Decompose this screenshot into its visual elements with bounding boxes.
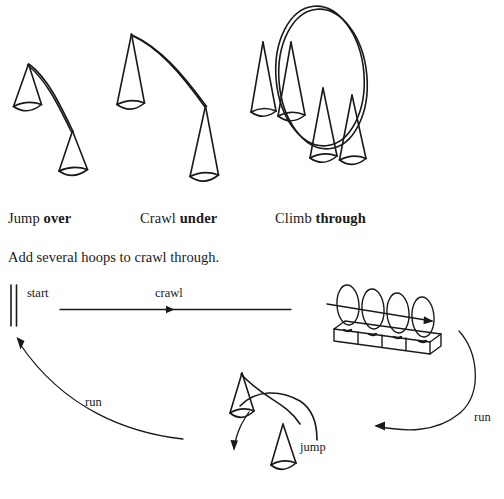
caption-jump-over: Jump over <box>8 211 71 226</box>
caption-climb-bold: through <box>315 210 365 226</box>
run-arrow-right <box>375 331 476 431</box>
rope <box>28 65 72 132</box>
climb-through-figure <box>251 2 373 164</box>
label-crawl: crawl <box>155 287 183 300</box>
jump-station <box>230 373 317 469</box>
jump-arc <box>240 393 317 440</box>
crawl-arrow <box>60 306 291 313</box>
caption-climb-through: Climb through <box>275 211 366 226</box>
label-run-left: run <box>85 396 102 409</box>
instruction-text: Add several hoops to crawl through. <box>8 250 219 265</box>
hoop-row <box>327 284 441 354</box>
rope <box>131 35 205 107</box>
crawl-under-figure <box>117 34 219 181</box>
start-gate <box>11 285 17 326</box>
run-arrow-left <box>17 337 184 439</box>
cone <box>59 131 88 175</box>
caption-crawl-plain: Crawl <box>140 210 180 226</box>
cone <box>310 88 337 162</box>
worksheet-page: Jump over Crawl under Climb through Add … <box>0 0 504 499</box>
cone <box>251 42 276 116</box>
caption-crawl-under: Crawl under <box>140 211 217 226</box>
cone <box>230 373 254 417</box>
caption-crawl-bold: under <box>180 210 218 226</box>
label-run-right: run <box>474 411 491 424</box>
label-jump: jump <box>300 441 326 454</box>
cone <box>271 424 296 469</box>
caption-jump-bold: over <box>44 210 72 226</box>
rope <box>133 36 207 107</box>
jump-over-figure <box>14 64 88 175</box>
caption-climb-plain: Climb <box>275 210 315 226</box>
cone <box>117 34 145 109</box>
label-start: start <box>27 287 49 300</box>
caption-jump-plain: Jump <box>8 210 44 226</box>
cone <box>190 106 219 181</box>
